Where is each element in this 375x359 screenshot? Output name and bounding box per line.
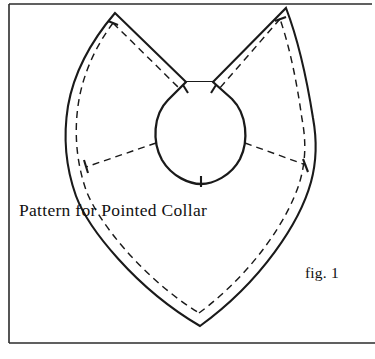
figure-caption: Pattern for Pointed Collar xyxy=(19,200,207,221)
collar-pattern-illustration xyxy=(0,0,375,359)
figure-page: Pattern for Pointed Collar fig. 1 xyxy=(0,0,375,359)
figure-label: fig. 1 xyxy=(305,264,339,282)
